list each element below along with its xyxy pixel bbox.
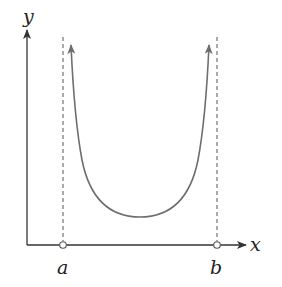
point-b-label: b <box>210 256 222 278</box>
point-a-label: a <box>57 256 68 278</box>
u-curve-diagram: y x a b <box>0 0 282 287</box>
y-axis-label: y <box>22 5 34 27</box>
u-curve-right <box>140 45 209 217</box>
open-point-a <box>60 242 67 249</box>
u-curve <box>71 45 140 217</box>
x-axis-label: x <box>250 233 261 255</box>
open-point-b <box>214 242 221 249</box>
